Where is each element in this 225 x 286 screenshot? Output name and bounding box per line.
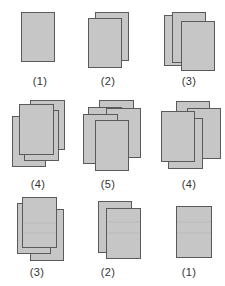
page-sheet	[20, 105, 54, 155]
stack-count-label: (3)	[182, 75, 196, 87]
page-sheet	[22, 13, 55, 62]
stack-count-label: (5)	[101, 178, 115, 190]
stack-3-bottom	[18, 198, 64, 261]
stack-count-label: (4)	[182, 178, 196, 190]
page-sheet	[162, 112, 195, 162]
stack-count-label: (4)	[31, 178, 45, 190]
stack-2-bottom	[99, 202, 141, 259]
stack-4-middle-right	[162, 102, 221, 169]
stack-count-label: (1)	[33, 75, 47, 87]
page-sheet	[96, 121, 129, 171]
page-stack-diagram	[0, 0, 225, 286]
page-sheet	[89, 19, 122, 68]
stack-2-top	[89, 13, 129, 68]
stack-5-middle	[84, 101, 141, 171]
page-sheet	[182, 22, 215, 71]
stack-3-top	[165, 13, 215, 71]
stack-count-label: (3)	[30, 266, 44, 278]
page-sheet	[107, 209, 141, 259]
stack-count-label: (2)	[101, 75, 115, 87]
page-sheet	[23, 198, 57, 248]
stack-count-label: (2)	[101, 266, 115, 278]
stack-4-middle-left	[13, 101, 65, 167]
stack-1-top	[22, 13, 55, 62]
page-sheet	[177, 207, 212, 258]
stack-1-bottom	[177, 207, 212, 258]
stack-count-label: (1)	[182, 266, 196, 278]
